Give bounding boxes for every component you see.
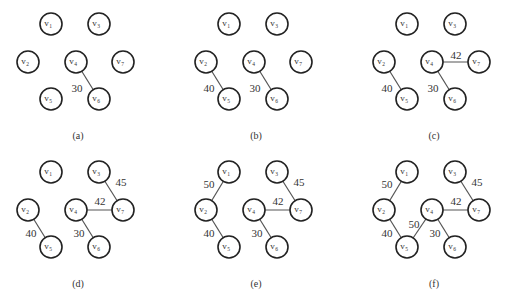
weight-label-v4-v6: 30 (252, 227, 264, 239)
panel-d: v1v3v2v4v7v5v640304245(d) (17, 161, 134, 290)
panel-f: v1v3v2v4v7v5v6403042455050(f) (373, 161, 490, 290)
weight-label-v4-v7: 42 (451, 195, 462, 207)
node-v1: v1 (218, 13, 240, 35)
panel-a: v1v3v2v4v7v5v630(a) (17, 13, 134, 142)
node-v5: v5 (218, 236, 240, 258)
weight-label-v4-v7: 42 (95, 195, 106, 207)
node-v4: v4 (65, 51, 87, 73)
node-v5: v5 (40, 88, 62, 110)
node-v2: v2 (17, 51, 39, 73)
weight-label-v2-v5: 40 (204, 227, 216, 239)
node-v7: v7 (290, 51, 312, 73)
node-v6: v6 (88, 88, 110, 110)
node-v1: v1 (40, 13, 62, 35)
panel-caption: (c) (428, 130, 439, 142)
node-v5: v5 (396, 236, 418, 258)
weight-label-v1-v2: 50 (382, 178, 394, 190)
node-v5: v5 (396, 88, 418, 110)
panel-caption: (f) (429, 278, 439, 290)
node-v3: v3 (266, 161, 288, 183)
node-v1: v1 (396, 13, 418, 35)
node-v3: v3 (88, 161, 110, 183)
node-v1: v1 (218, 161, 240, 183)
node-v3: v3 (88, 13, 110, 35)
weight-label-v4-v6: 30 (250, 82, 262, 94)
node-v4: v4 (243, 199, 265, 221)
node-v2: v2 (195, 51, 217, 73)
weight-label-v2-v5: 40 (382, 227, 394, 239)
node-v6: v6 (444, 88, 466, 110)
weight-label-v3-v7: 45 (294, 176, 306, 188)
weight-label-v4-v6: 30 (430, 227, 442, 239)
node-v6: v6 (88, 236, 110, 258)
node-v2: v2 (373, 199, 395, 221)
panel-b: v1v3v2v4v7v5v64030(b) (195, 13, 312, 142)
node-v4: v4 (421, 51, 443, 73)
weight-label-v4-v7: 42 (451, 49, 462, 61)
weight-label-v3-v7: 45 (116, 176, 128, 188)
node-v7: v7 (290, 199, 312, 221)
node-v1: v1 (40, 161, 62, 183)
weight-label-v1-v2: 50 (204, 178, 216, 190)
mst-construction-figure: v1v3v2v4v7v5v630(a)v1v3v2v4v7v5v64030(b)… (0, 0, 505, 297)
node-v7: v7 (112, 199, 134, 221)
node-v3: v3 (266, 13, 288, 35)
panel-caption: (e) (250, 278, 261, 290)
node-v3: v3 (444, 161, 466, 183)
weight-label-v3-v7: 45 (472, 176, 484, 188)
node-v5: v5 (218, 88, 240, 110)
node-v7: v7 (468, 51, 490, 73)
weight-label-v4-v6: 30 (74, 227, 86, 239)
panel-e: v1v3v2v4v7v5v64030424550(e) (195, 161, 312, 290)
node-v7: v7 (112, 51, 134, 73)
node-v3: v3 (444, 13, 466, 35)
node-v1: v1 (396, 161, 418, 183)
node-v6: v6 (266, 88, 288, 110)
node-v6: v6 (444, 236, 466, 258)
panel-caption: (d) (72, 278, 84, 290)
node-v2: v2 (373, 51, 395, 73)
node-v4: v4 (65, 199, 87, 221)
weight-label-v4-v5: 50 (409, 218, 421, 230)
node-v2: v2 (17, 199, 39, 221)
weight-label-v4-v6: 30 (72, 82, 84, 94)
weight-label-v2-v5: 40 (26, 227, 38, 239)
weight-label-v2-v5: 40 (382, 82, 394, 94)
node-v7: v7 (468, 199, 490, 221)
panel-caption: (b) (250, 130, 262, 142)
weight-label-v2-v5: 40 (204, 82, 216, 94)
panel-c: v1v3v2v4v7v5v6403042(c) (373, 13, 490, 142)
node-v2: v2 (195, 199, 217, 221)
node-v4: v4 (421, 199, 443, 221)
weight-label-v4-v6: 30 (428, 82, 440, 94)
weight-label-v4-v7: 42 (273, 195, 284, 207)
node-v6: v6 (266, 236, 288, 258)
panel-caption: (a) (72, 130, 83, 142)
node-v5: v5 (40, 236, 62, 258)
node-v4: v4 (243, 51, 265, 73)
